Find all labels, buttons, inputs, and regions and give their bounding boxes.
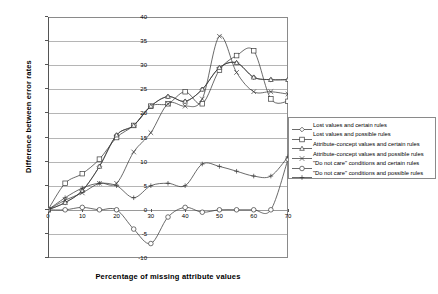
legend-item[interactable]: "Do not care" conditions and possible ru… bbox=[291, 168, 433, 178]
data-point-marker-plus bbox=[269, 174, 274, 179]
data-point-marker-square bbox=[63, 181, 68, 186]
data-point-marker-square bbox=[286, 99, 291, 104]
data-point-marker-cross bbox=[251, 89, 256, 94]
data-point-marker-square bbox=[97, 157, 102, 162]
data-point-marker-cross bbox=[234, 70, 239, 75]
data-point-marker-circle bbox=[200, 210, 205, 215]
data-point-marker-circle bbox=[269, 208, 274, 213]
data-point-marker-square bbox=[269, 97, 274, 102]
legend-item[interactable]: Attribute-concept values and possible ru… bbox=[291, 149, 433, 159]
legend-item[interactable]: Lost values and certain rules bbox=[291, 120, 433, 130]
legend: Lost values and certain rulesLost values… bbox=[288, 117, 436, 179]
data-point-marker-cross bbox=[131, 150, 136, 155]
data-point-marker-plus bbox=[149, 183, 154, 188]
data-point-marker-plus bbox=[251, 174, 256, 179]
legend-marker-circle-icon bbox=[291, 159, 313, 168]
data-point-marker-plus bbox=[217, 164, 222, 169]
data-point-marker-circle bbox=[114, 208, 119, 213]
legend-item-label: Attribute-concept values and certain rul… bbox=[313, 141, 420, 147]
legend-marker-cross-icon bbox=[291, 149, 313, 158]
legend-marker-square-icon bbox=[291, 130, 313, 139]
data-point-marker-plus bbox=[234, 169, 239, 174]
data-point-marker-plus bbox=[131, 195, 136, 200]
legend-item[interactable]: "Do not care" conditions and certain rul… bbox=[291, 158, 433, 168]
legend-item-label: "Do not care" conditions and possible ru… bbox=[313, 170, 423, 176]
data-point-marker-circle bbox=[63, 208, 68, 213]
data-point-marker-square bbox=[80, 171, 85, 176]
legend-item-label: "Do not care" conditions and certain rul… bbox=[313, 160, 419, 166]
data-point-marker-cross bbox=[200, 97, 205, 102]
legend-marker-plus-icon bbox=[291, 168, 313, 177]
legend-marker-diamond-icon bbox=[291, 120, 313, 129]
data-point-marker-circle bbox=[234, 208, 239, 213]
legend-item-label: Lost values and possible rules bbox=[313, 131, 391, 137]
data-point-marker-square bbox=[234, 53, 239, 58]
data-point-marker-square bbox=[183, 89, 188, 94]
legend-item[interactable]: Attribute-concept values and certain rul… bbox=[291, 139, 433, 149]
data-point-marker-circle bbox=[97, 208, 102, 213]
legend-item-label: Lost values and certain rules bbox=[313, 122, 387, 128]
data-point-marker-circle bbox=[149, 241, 154, 246]
data-point-marker-circle bbox=[217, 208, 222, 213]
data-point-marker-plus bbox=[166, 181, 171, 186]
line-chart: Difference between error rates Percentag… bbox=[0, 0, 438, 294]
data-point-marker-circle bbox=[251, 208, 256, 213]
legend-item-label: Attribute-concept values and possible ru… bbox=[313, 151, 424, 157]
legend-marker-triangle-icon bbox=[291, 139, 313, 148]
data-point-marker-circle bbox=[166, 215, 171, 220]
data-point-marker-cross bbox=[149, 130, 154, 135]
data-point-marker-circle bbox=[183, 205, 188, 210]
data-point-marker-square bbox=[251, 48, 256, 53]
data-point-marker-circle bbox=[131, 227, 136, 232]
data-point-marker-circle bbox=[80, 205, 85, 210]
legend-item[interactable]: Lost values and possible rules bbox=[291, 130, 433, 140]
